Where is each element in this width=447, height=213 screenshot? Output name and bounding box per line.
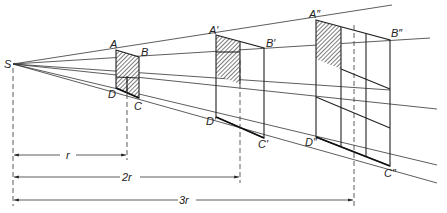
quad-3-grid-diag2 xyxy=(316,97,390,128)
reference-lines xyxy=(13,25,354,206)
perspective-diagram: r 2r 3r S A B D C A′ B′ D′ C′ A″ B″ D″ C… xyxy=(0,0,447,213)
dimension-lines: r 2r 3r xyxy=(14,149,353,206)
label-s: S xyxy=(4,58,12,70)
dim-r-label: r xyxy=(66,149,71,161)
label-a: A xyxy=(109,38,117,50)
label-b: B xyxy=(141,46,148,58)
dim-2r-label: 2r xyxy=(121,171,133,183)
label-c-prime: C′ xyxy=(258,138,269,150)
dim-3r-label: 3r xyxy=(179,194,190,206)
quad-3 xyxy=(316,20,390,166)
quad-1 xyxy=(116,50,139,98)
label-d: D xyxy=(108,88,116,100)
label-c: C xyxy=(134,100,142,112)
label-a-double-prime: A″ xyxy=(308,8,321,20)
label-c-double-prime: C″ xyxy=(384,167,397,179)
ray-through-d xyxy=(13,64,437,165)
hatched-face-2 xyxy=(216,35,240,84)
label-b-double-prime: B″ xyxy=(391,27,403,39)
projection-rays xyxy=(13,5,437,183)
hatched-face-3 xyxy=(316,20,341,69)
label-b-prime: B′ xyxy=(266,37,276,49)
ray-mid-upper xyxy=(13,64,390,90)
label-a-prime: A′ xyxy=(208,24,219,36)
label-d-prime: D′ xyxy=(206,115,217,127)
label-d-double-prime: D″ xyxy=(305,136,318,148)
point-labels: S A B D C A′ B′ D′ C′ A″ B″ D″ C″ xyxy=(4,8,403,179)
